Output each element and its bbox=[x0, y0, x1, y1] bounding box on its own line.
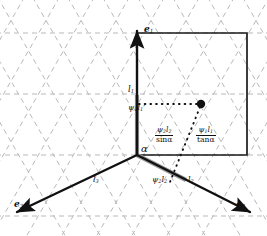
length-label-psi2-l2: ψ2l2 bbox=[152, 176, 167, 184]
fraction-psi2l2-over-sin-alpha: ψ2l2 sinα bbox=[155, 126, 173, 144]
axis-label-e2: e2 bbox=[236, 200, 245, 210]
length-label-l2: l2 bbox=[188, 176, 194, 184]
angle-label-alpha: α bbox=[141, 144, 148, 154]
axis-e3-arrow bbox=[17, 155, 137, 212]
length-label-l3: l3 bbox=[93, 176, 99, 184]
length-label-psi1-l1-prime: ψ1l1′ bbox=[128, 104, 145, 112]
fraction-psi1l1-over-tan-alpha: ψ1l1 tanα bbox=[196, 126, 216, 144]
axis-label-e3: e3 bbox=[14, 200, 23, 210]
axis-label-e1: e1 bbox=[144, 25, 153, 35]
diagram-svg bbox=[0, 0, 267, 236]
length-label-l1: l1 bbox=[128, 85, 134, 94]
dotted-diagonal bbox=[170, 107, 200, 182]
figure-canvas: e1 e2 e3 α l1 ψ1l1′ ψ2l2 sinα ψ1l1 tanα … bbox=[0, 0, 267, 236]
axis-arrows bbox=[17, 31, 250, 212]
marked-point bbox=[197, 100, 205, 108]
